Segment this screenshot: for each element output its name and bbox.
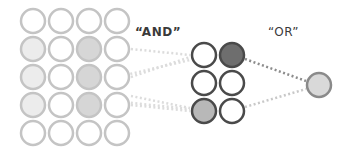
input-neuron [77,65,101,89]
input-neuron [49,65,73,89]
and-connection [131,96,190,108]
input-neuron [21,121,45,145]
input-neuron [49,93,73,117]
input-neuron [21,93,45,117]
and-neuron [220,99,244,123]
and-neuron [220,71,244,95]
or-connections [245,59,306,107]
and-connection [131,49,190,55]
input-neuron [105,65,129,89]
and-neuron [220,43,244,67]
or-connection [245,89,306,107]
input-neuron [21,9,45,33]
or-output-neuron [307,73,331,97]
and-label: “AND” [135,25,181,39]
or-label: “OR” [268,25,299,39]
and-neuron [192,71,216,95]
input-neuron [77,9,101,33]
or-output [307,73,331,97]
and-neuron [192,43,216,67]
input-neuron [49,37,73,61]
input-neuron [105,37,129,61]
input-neuron [77,93,101,117]
input-neuron [77,37,101,61]
input-neuron [105,9,129,33]
and-layer [192,43,244,123]
input-neuron [21,65,45,89]
and-connection [131,57,190,77]
input-neuron [77,121,101,145]
input-neuron [49,9,73,33]
input-neuron [105,93,129,117]
input-neuron [105,121,129,145]
or-connection [245,59,306,81]
input-neuron [49,121,73,145]
input-grid [21,9,129,145]
and-neuron [192,99,216,123]
input-neuron [21,37,45,61]
